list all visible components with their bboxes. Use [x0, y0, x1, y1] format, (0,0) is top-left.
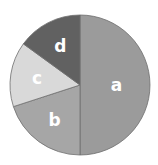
- pie-chart: abcd: [0, 0, 158, 165]
- pie-slices: [10, 15, 150, 155]
- slice-label-d: d: [54, 36, 66, 56]
- slice-label-b: b: [48, 110, 60, 130]
- slice-label-c: c: [32, 68, 42, 88]
- slice-label-a: a: [111, 75, 122, 95]
